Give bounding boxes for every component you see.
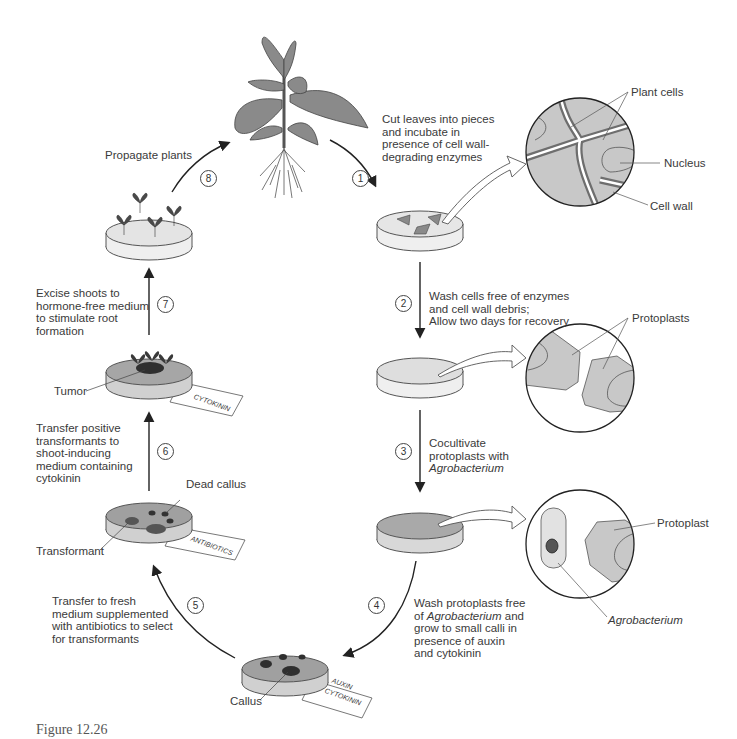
step-4-line-2-pre: of [414,610,427,622]
step-8-text: Propagate plants [105,149,192,162]
label-tumor: Tumor [54,385,87,398]
step-4-line-2-italic: Agrobacterium [427,610,502,622]
label-callus: Callus [230,695,262,708]
step-4-line-3: grow to small calli in [414,622,517,634]
petri-dish-protoplasts [377,358,463,398]
step-4-line-1: Wash protoplasts free [414,597,525,609]
label-protoplast: Protoplast [657,517,709,530]
step-badge-6: 6 [157,443,174,460]
step-1-text: Cut leaves into pieces and incubate in p… [382,113,495,163]
step-4-text: Wash protoplasts free of Agrobacterium a… [414,597,525,660]
label-cell-wall: Cell wall [650,200,693,213]
step-6-text: Transfer positive transformants to shoot… [36,422,133,485]
step-badge-8: 8 [200,170,217,187]
step-badge-4: 4 [368,597,385,614]
plant-illustration [235,37,368,198]
step-badge-5: 5 [187,597,204,614]
label-protoplasts: Protoplasts [632,312,690,325]
zoom-circle-protoplasts [525,318,640,432]
label-nucleus: Nucleus [664,157,706,170]
step-5-text: Transfer to fresh medium supplemented wi… [52,595,173,645]
label-dead-callus: Dead callus [186,478,246,491]
zoom-circle-plant-cells [520,92,660,215]
step-4-line-4: presence of auxin [414,635,505,647]
step-4-line-2-post: and [502,610,524,622]
label-agrobacterium: Agrobacterium [608,614,683,627]
step-badge-1: 1 [352,170,369,187]
step-7-text: Excise shoots to hormone-free medium to … [36,287,149,337]
step-3-line-3: Agrobacterium [429,462,504,474]
step-badge-7: 7 [157,296,174,313]
step-badge-3: 3 [395,443,412,460]
step-3-line-2: protoplasts with [429,450,509,462]
label-plant-cells: Plant cells [631,86,683,99]
petri-dish-plantlets [106,193,192,260]
label-transformant: Transformant [36,545,104,558]
zoom-circle-agrobacterium [526,490,655,617]
step-3-text: Cocultivate protoplasts with Agrobacteri… [429,437,509,475]
step-4-line-5: and cytokinin [414,647,481,659]
step-3-line-1: Cocultivate [429,437,486,449]
figure-caption: Figure 12.26 [36,722,108,738]
step-2-text: Wash cells free of enzymes and cell wall… [429,290,569,328]
step-badge-2: 2 [395,295,412,312]
